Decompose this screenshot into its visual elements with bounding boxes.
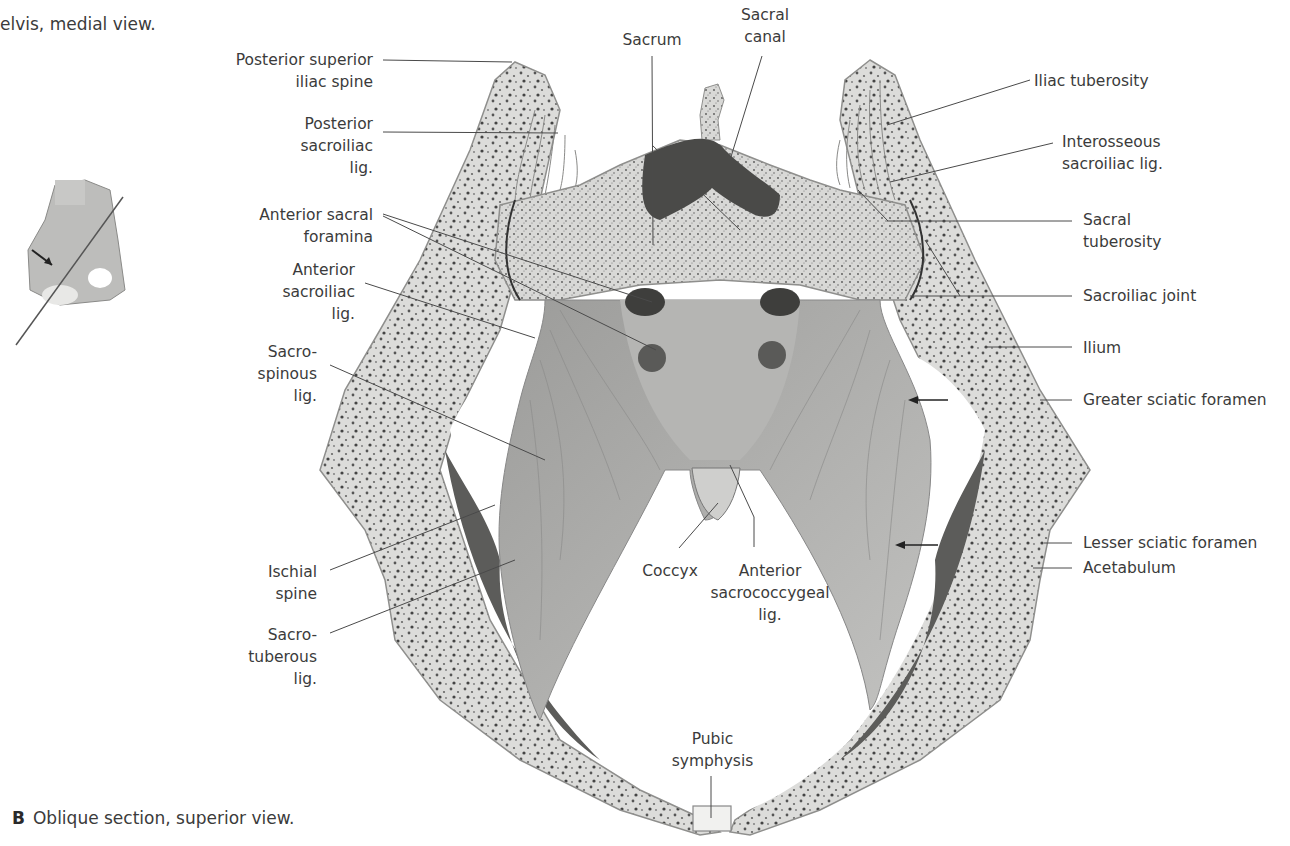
label-coccyx: Coccyx	[630, 560, 710, 582]
label-lesser-sciatic-foramen: Lesser sciatic foramen	[1083, 532, 1257, 554]
label-sacroiliac-joint: Sacroiliac joint	[1083, 285, 1196, 307]
figure-caption-text: Oblique section, superior view.	[33, 808, 294, 828]
label-ischial-spine: Ischial spine	[268, 561, 317, 605]
label-posterior-superior-iliac-spine: Posterior superior iliac spine	[236, 49, 373, 93]
label-sacral-canal: Sacral canal	[735, 4, 795, 48]
label-anterior-sacroiliac-lig: Anterior sacroiliac lig.	[282, 259, 355, 325]
label-anterior-sacrococcygeal-lig: Anterior sacrococcygeal lig.	[700, 560, 840, 626]
figure-letter: B	[12, 808, 25, 828]
label-sacrum: Sacrum	[612, 29, 692, 51]
label-sacrospinous-lig: Sacro- spinous lig.	[258, 341, 317, 407]
figure-stage: elvis, medial view.	[0, 0, 1290, 846]
inset-pelvis-thumbnail	[16, 180, 125, 345]
pubic-symphysis	[693, 806, 731, 831]
label-pubic-symphysis: Pubic symphysis	[670, 728, 755, 772]
label-posterior-sacroiliac-lig: Posterior sacroiliac lig.	[300, 113, 373, 179]
label-interosseous-sacroiliac-lig: Interosseous sacroiliac lig.	[1062, 131, 1163, 175]
pelvis-section-illustration	[0, 0, 1290, 846]
label-iliac-tuberosity: Iliac tuberosity	[1034, 70, 1149, 92]
label-anterior-sacral-foramina: Anterior sacral foramina	[259, 204, 373, 248]
label-sacral-tuberosity: Sacral tuberosity	[1083, 209, 1161, 253]
label-sacrotuberous-lig: Sacro- tuberous lig.	[248, 624, 317, 690]
label-acetabulum: Acetabulum	[1083, 557, 1176, 579]
label-greater-sciatic-foramen: Greater sciatic foramen	[1083, 389, 1267, 411]
label-ilium: Ilium	[1083, 337, 1121, 359]
figure-caption: BOblique section, superior view.	[12, 808, 294, 828]
